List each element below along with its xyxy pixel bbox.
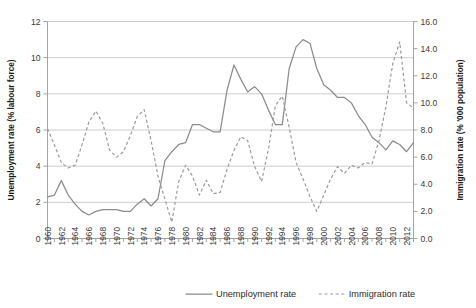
right-axis-tick-label: 2.0 xyxy=(421,206,433,216)
legend-label-immigration-rate: Immigration rate xyxy=(349,289,415,299)
right-axis-title: Immigration rate (% '000 population) xyxy=(456,59,465,200)
legend-label-unemployment-rate: Unemployment rate xyxy=(216,289,296,299)
x-axis-tick-label: 1982 xyxy=(195,227,205,246)
left-axis-tick-label: 0 xyxy=(36,234,41,244)
x-axis-tick-label: 1966 xyxy=(84,227,94,246)
left-axis-tick-label: 6 xyxy=(36,125,41,135)
x-axis-tick-label: 1960 xyxy=(43,227,53,246)
x-axis-tick-label: 1974 xyxy=(139,227,149,246)
x-axis-tick-label: 1990 xyxy=(250,227,260,246)
right-axis-tick-label: 14.0 xyxy=(421,44,438,54)
x-axis-tick-label: 1996 xyxy=(291,227,301,246)
x-axis-tick-label: 1964 xyxy=(70,227,80,246)
x-axis-tick-label: 1976 xyxy=(153,227,163,246)
x-axis-tick-label: 1986 xyxy=(222,227,232,246)
right-axis-tick-label: 0.0 xyxy=(421,234,433,244)
x-axis-tick-label: 1962 xyxy=(57,227,67,246)
right-axis-tick-label: 16.0 xyxy=(421,17,438,27)
left-axis-title: Unemployment rate (% labour force) xyxy=(7,59,16,200)
left-axis-tick-label: 12 xyxy=(31,17,41,27)
x-axis-tick-label: 1978 xyxy=(167,227,177,246)
left-axis-tick-label: 8 xyxy=(36,89,41,99)
x-axis-tick-label: 2010 xyxy=(388,227,398,246)
x-axis-tick-label: 1980 xyxy=(181,227,191,246)
right-axis-tick-label: 12.0 xyxy=(421,71,438,81)
dual-axis-line-chart: 0246810120.02.04.06.08.010.012.014.016.0… xyxy=(0,0,476,308)
left-axis-tick-label: 2 xyxy=(36,197,41,207)
x-axis-tick-label: 2002 xyxy=(333,227,343,246)
right-axis-tick-label: 8.0 xyxy=(421,125,433,135)
x-axis-tick-label: 2012 xyxy=(402,227,412,246)
left-axis-tick-label: 4 xyxy=(36,161,41,171)
x-axis-tick-label: 2008 xyxy=(374,227,384,246)
x-axis-tick-label: 1992 xyxy=(264,227,274,246)
right-axis-tick-label: 4.0 xyxy=(421,179,433,189)
x-axis-tick-label: 1972 xyxy=(126,227,136,246)
x-axis-tick-label: 1998 xyxy=(305,227,315,246)
x-axis-tick-label: 1988 xyxy=(236,227,246,246)
x-axis-tick-label: 2006 xyxy=(360,227,370,246)
x-axis-tick-label: 1994 xyxy=(277,227,287,246)
chart-container: 0246810120.02.04.06.08.010.012.014.016.0… xyxy=(0,0,476,308)
x-axis-tick-label: 1970 xyxy=(112,227,122,246)
left-axis-tick-label: 10 xyxy=(31,53,41,63)
x-axis-tick-label: 1984 xyxy=(208,227,218,246)
right-axis-tick-label: 6.0 xyxy=(421,152,433,162)
x-axis-tick-label: 2000 xyxy=(319,227,329,246)
x-axis-tick-label: 1968 xyxy=(98,227,108,246)
right-axis-tick-label: 10.0 xyxy=(421,98,438,108)
x-axis-tick-label: 2004 xyxy=(347,227,357,246)
